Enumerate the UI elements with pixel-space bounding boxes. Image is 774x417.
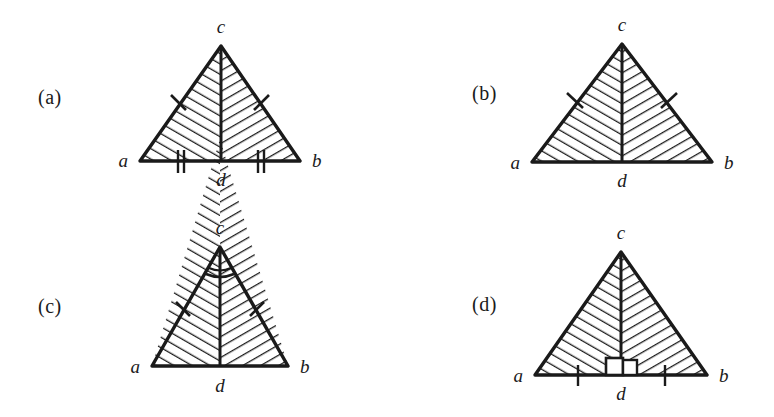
vertex-label-c: c bbox=[618, 14, 627, 35]
vertex-label-d: d bbox=[215, 375, 225, 396]
vertex-label-a: a bbox=[131, 356, 141, 377]
panel-b: (b) c a b d bbox=[387, 0, 774, 208]
vertex-label-c: c bbox=[617, 222, 626, 243]
right-angle-marker bbox=[606, 358, 637, 375]
panel-b-diagram: c a b d bbox=[387, 0, 774, 208]
vertex-label-b: b bbox=[724, 152, 734, 173]
panel-c-diagram: c a b d bbox=[0, 208, 387, 417]
vertex-label-b: b bbox=[300, 356, 310, 377]
vertex-label-c: c bbox=[216, 217, 225, 238]
figure-root: (a) bbox=[0, 0, 774, 417]
vertex-label-b: b bbox=[312, 150, 322, 171]
panel-a-diagram: c a b d bbox=[0, 0, 387, 208]
vertex-label-c: c bbox=[217, 16, 226, 37]
vertex-label-d: d bbox=[617, 170, 627, 191]
vertex-label-b: b bbox=[719, 365, 729, 386]
vertex-label-a: a bbox=[514, 365, 524, 386]
panel-d: (d) c bbox=[387, 208, 774, 417]
vertex-label-a: a bbox=[119, 150, 129, 171]
vertex-label-a: a bbox=[511, 152, 521, 173]
vertex-label-d: d bbox=[616, 383, 626, 404]
panel-d-diagram: c a b d bbox=[387, 208, 774, 417]
panel-c: (c) c a bbox=[0, 208, 387, 417]
panel-a: (a) bbox=[0, 0, 387, 208]
